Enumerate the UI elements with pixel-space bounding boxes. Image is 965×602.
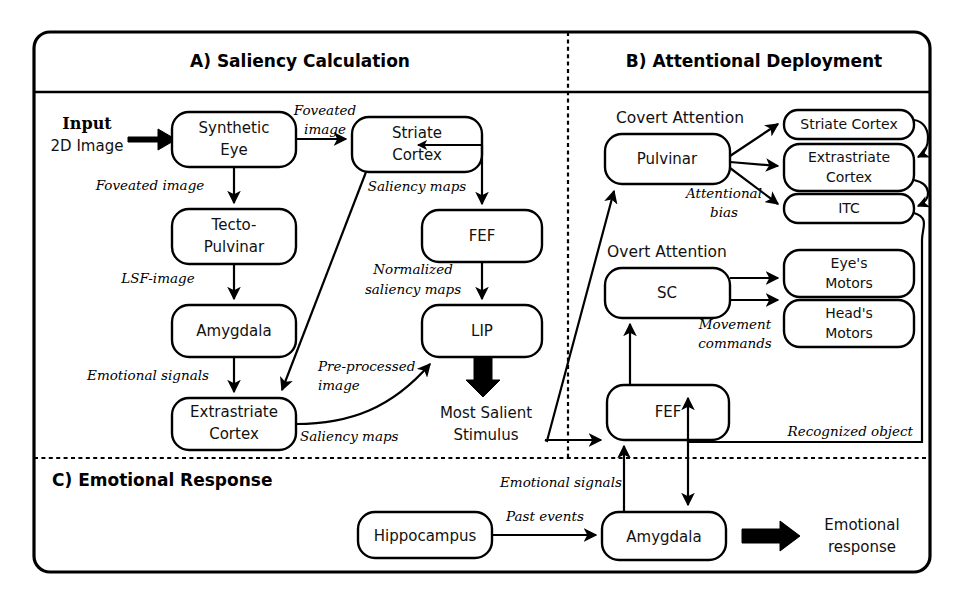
- emotional-response-line2: response: [828, 538, 896, 556]
- node-hippocampus-label: Hippocampus: [374, 527, 477, 545]
- input-sublabel: 2D Image: [51, 137, 124, 155]
- node-amygdala-a-label: Amygdala: [196, 322, 271, 340]
- panel-a-title: A) Saliency Calculation: [190, 51, 410, 71]
- node-extrastriate-a-line1: Extrastriate: [190, 403, 278, 421]
- edge-amygdala-to-emotional-response-thick-arrow: [742, 521, 800, 551]
- node-itc: ITC: [784, 194, 914, 223]
- input-label: Input: [62, 114, 112, 133]
- node-sc-label: SC: [657, 284, 677, 302]
- node-pulvinar: Pulvinar: [605, 134, 730, 184]
- panel-b-title: B) Attentional Deployment: [626, 51, 883, 71]
- node-fef-b-label: FEF: [655, 403, 682, 421]
- node-extrastriate-b-line2: Cortex: [826, 169, 872, 185]
- edge-label-emotional-signals-a: Emotional signals: [86, 367, 209, 383]
- node-extrastriate-cortex-a: Extrastriate Cortex: [172, 398, 296, 450]
- edge-label-foveated-r1: Foveated: [293, 102, 357, 118]
- node-tecto-pulvinar: Tecto- Pulvinar: [172, 209, 296, 264]
- edge-striate-b-to-extrastriate-b: [914, 120, 928, 157]
- edge-label-saliency-maps-striate: Saliency maps: [368, 178, 467, 194]
- node-extrastriate-b-line1: Extrastriate: [808, 149, 890, 165]
- node-heads-motors-line2: Motors: [825, 325, 873, 341]
- edge-label-movement-2: commands: [698, 335, 772, 351]
- neural-architecture-diagram: A) Saliency Calculation B) Attentional D…: [0, 0, 965, 602]
- edge-lip-to-most-salient-thick-arrow: [466, 357, 500, 397]
- node-sc: SC: [605, 268, 730, 318]
- node-synthetic-eye: Synthetic Eye: [172, 112, 296, 167]
- most-salient-line1: Most Salient: [440, 404, 532, 422]
- covert-attention-group-label: Covert Attention: [616, 109, 744, 127]
- node-amygdala-a: Amygdala: [172, 305, 296, 357]
- overt-attention-group-label: Overt Attention: [607, 243, 727, 261]
- input-thick-arrow: [128, 129, 176, 150]
- edge-label-movement-1: Movement: [698, 316, 772, 332]
- edge-label-lsf-image: LSF-image: [120, 270, 194, 286]
- edge-label-attentional-1: Attentional: [684, 185, 762, 201]
- edge-label-attentional-2: bias: [710, 204, 738, 220]
- edge-label-recognized-object: Recognized object: [787, 423, 914, 439]
- node-eyes-motors: Eye's Motors: [784, 250, 914, 297]
- node-tecto-pulvinar-line1: Tecto-: [211, 216, 257, 234]
- node-fef-a: FEF: [422, 210, 542, 262]
- node-hippocampus: Hippocampus: [358, 512, 492, 558]
- edge-label-emotional-signals-c: Emotional signals: [499, 474, 622, 490]
- node-amygdala-c: Amygdala: [602, 512, 726, 560]
- node-fef-a-label: FEF: [469, 227, 496, 245]
- node-extrastriate-cortex-b: Extrastriate Cortex: [784, 144, 914, 191]
- edge-label-normalized-2: saliency maps: [365, 281, 461, 297]
- node-synthetic-eye-line2: Eye: [220, 141, 248, 159]
- node-eyes-motors-line1: Eye's: [831, 255, 868, 271]
- edge-pulvinar-to-striate-b: [730, 124, 778, 156]
- edge-label-foveated-image-down: Foveated image: [95, 177, 205, 193]
- node-eyes-motors-line2: Motors: [825, 275, 873, 291]
- edge-label-preprocessed-2: image: [318, 377, 360, 393]
- node-tecto-pulvinar-line2: Pulvinar: [204, 238, 265, 256]
- node-synthetic-eye-line1: Synthetic: [199, 119, 270, 137]
- most-salient-line2: Stimulus: [453, 426, 518, 444]
- node-fef-b: FEF: [607, 385, 729, 440]
- figure-canvas: A) Saliency Calculation B) Attentional D…: [0, 0, 965, 602]
- node-heads-motors: Head's Motors: [784, 300, 914, 347]
- node-lip: LIP: [422, 305, 542, 357]
- node-striate-cortex-b: Striate Cortex: [784, 110, 914, 139]
- node-striate-b-label: Striate Cortex: [800, 116, 897, 132]
- node-pulvinar-label: Pulvinar: [637, 150, 698, 168]
- edge-pulvinar-to-extrastriate-b: [730, 162, 778, 166]
- node-itc-label: ITC: [838, 200, 860, 216]
- edge-label-normalized-1: Normalized: [372, 261, 453, 277]
- edge-most-salient-to-pulvinar: [545, 191, 614, 441]
- node-striate-a-line2: Cortex: [392, 146, 442, 164]
- node-lip-label: LIP: [471, 322, 493, 340]
- edge-label-saliency-maps-extra: Saliency maps: [300, 428, 399, 444]
- edge-label-preprocessed-1: Pre-processed: [317, 358, 416, 374]
- edge-label-past-events: Past events: [505, 508, 584, 524]
- edge-label-foveated-r2: image: [304, 121, 346, 137]
- node-heads-motors-line1: Head's: [825, 305, 873, 321]
- node-extrastriate-a-line2: Cortex: [209, 425, 259, 443]
- panel-c-title: C) Emotional Response: [52, 470, 272, 490]
- emotional-response-line1: Emotional: [824, 516, 899, 534]
- edge-extrastriate-b-to-itc: [914, 180, 928, 206]
- node-striate-a-line1: Striate: [392, 124, 442, 142]
- node-amygdala-c-label: Amygdala: [626, 528, 701, 546]
